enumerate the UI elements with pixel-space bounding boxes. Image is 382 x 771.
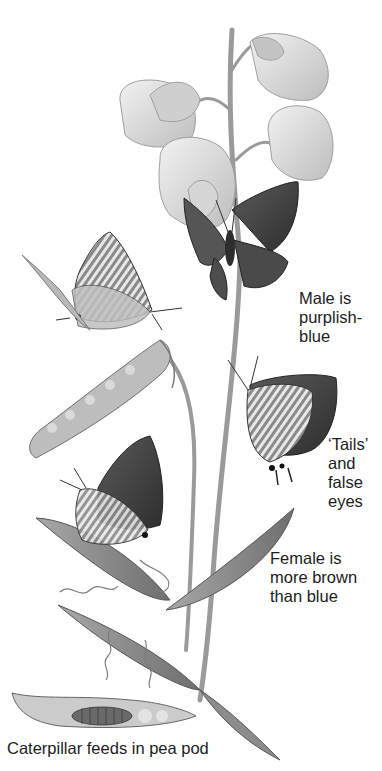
label-male-line: blue	[299, 327, 362, 346]
label-caterpillar: Caterpillar feeds in pea pod	[7, 739, 209, 758]
butterfly-illustration	[0, 0, 382, 771]
label-tails-line: false	[328, 473, 368, 492]
label-male: Male is purplish- blue	[299, 289, 362, 346]
label-tails-line: eyes	[328, 492, 368, 511]
label-female-line: than blue	[270, 587, 357, 606]
sweet-pea-flowers	[120, 34, 333, 229]
label-female-line: Female is	[270, 549, 357, 568]
tailed-butterfly	[228, 356, 337, 485]
label-tails-line: ‘Tails’	[328, 435, 368, 454]
label-female-line: more brown	[270, 568, 357, 587]
label-male-line: purplish-	[299, 308, 362, 327]
label-female: Female is more brown than blue	[270, 549, 357, 606]
caterpillar-pod	[12, 693, 196, 728]
label-male-line: Male is	[299, 289, 362, 308]
label-tails-line: and	[328, 454, 368, 473]
label-tails: ‘Tails’ and false eyes	[328, 435, 368, 511]
label-caterpillar-text: Caterpillar feeds in pea pod	[7, 739, 209, 758]
